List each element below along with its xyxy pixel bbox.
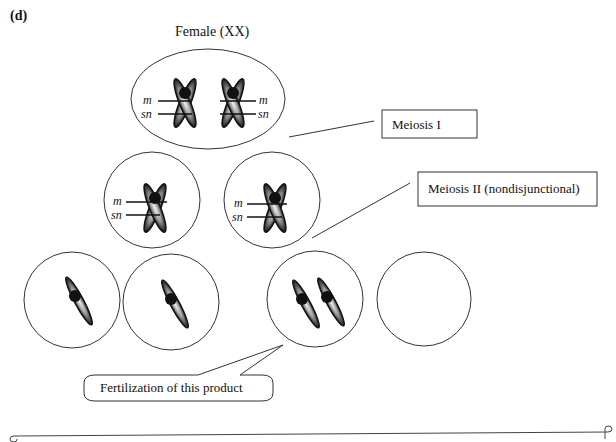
meiosis-1-leader-line <box>289 121 374 137</box>
gene-label-m: m <box>113 194 122 208</box>
gamete-cell-2 <box>123 254 219 350</box>
gene-label-sn-right: sn <box>258 107 269 121</box>
meiosis-1-label: Meiosis I <box>392 117 441 132</box>
meiosis-2-leader-line <box>312 183 410 238</box>
gene-label-sn: sn <box>232 210 243 224</box>
gamete-cell-4-empty <box>377 252 471 346</box>
panel-label: (d) <box>10 8 27 24</box>
parent-cell: m sn m sn <box>131 49 285 149</box>
title-female-xx: Female (XX) <box>175 24 250 40</box>
gene-label-sn: sn <box>111 208 122 222</box>
gamete-cell-1 <box>24 252 120 348</box>
gene-label-sn-left: sn <box>141 107 152 121</box>
meiosis-2-label: Meiosis II (nondisjunctional) <box>428 181 580 196</box>
gene-label-m-right: m <box>259 93 268 107</box>
gamete-cell-3-disomic <box>267 251 363 347</box>
bottom-border-rule <box>10 426 612 442</box>
meiosis-1-cell-right: m sn <box>224 152 320 248</box>
meiosis-1-cell-left: m sn <box>104 152 200 248</box>
gene-label-m-left: m <box>143 93 152 107</box>
meiosis-nondisjunction-diagram: (d) Female (XX) m sn m sn Meiosis I m sn <box>0 0 616 442</box>
fertilization-label: Fertilization of this product <box>100 380 243 395</box>
gene-label-m: m <box>234 196 243 210</box>
